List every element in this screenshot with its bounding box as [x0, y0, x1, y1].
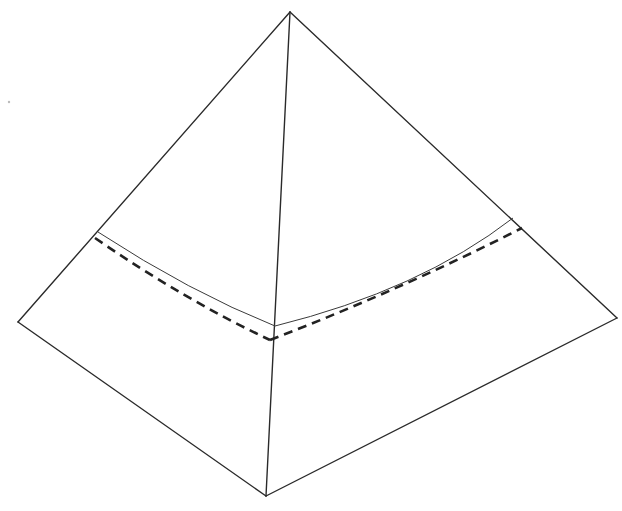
- dashed-curve: [95, 228, 522, 340]
- pyramid-outline: [18, 12, 617, 496]
- solid-curve-right-face: [275, 218, 513, 326]
- solid-curve: [98, 218, 513, 326]
- edge-apex-right: [290, 12, 617, 318]
- dashed-curve-left-face: [95, 238, 270, 340]
- edge-left-bottom: [18, 322, 266, 496]
- scan-speck: [8, 101, 10, 103]
- solid-curve-left-face: [98, 232, 275, 326]
- edge-apex-bottom-front: [266, 12, 290, 496]
- edge-right-bottom: [266, 318, 617, 496]
- dashed-curve-right-face: [270, 228, 522, 340]
- edge-apex-left: [18, 12, 290, 322]
- pyramid-diagram: [0, 0, 622, 511]
